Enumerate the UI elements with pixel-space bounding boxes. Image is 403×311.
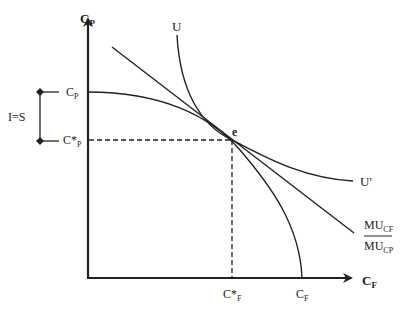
indifference-curve-label-end: U' bbox=[360, 174, 372, 189]
tangent-slope-label: MUCF MUCP bbox=[364, 218, 394, 255]
investment-savings-bracket bbox=[36, 88, 59, 145]
indifference-curve bbox=[177, 35, 353, 181]
svg-text:MUCF: MUCF bbox=[364, 218, 394, 234]
x-tick-optimal-label: C*F bbox=[223, 287, 242, 303]
y-axis-label: CP bbox=[80, 11, 95, 28]
y-tick-max-label: CP bbox=[66, 85, 79, 101]
ppf-curve bbox=[88, 92, 302, 278]
equilibrium-point-label: e bbox=[232, 125, 238, 139]
svg-text:MUCP: MUCP bbox=[364, 239, 394, 255]
y-tick-optimal-label: C*P bbox=[63, 133, 82, 149]
indifference-curve-label-top: U bbox=[172, 19, 182, 34]
x-tick-max-label: CF bbox=[296, 287, 309, 303]
x-axis-label: CF bbox=[362, 273, 377, 290]
bracket-label: I=S bbox=[8, 110, 25, 124]
diagram-canvas: CP CF e U U' MUCF MUCP CP C*P I=S bbox=[0, 0, 403, 311]
